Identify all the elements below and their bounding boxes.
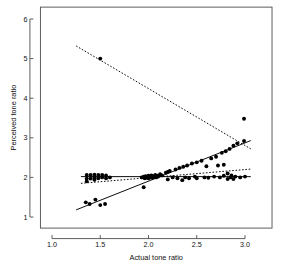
data-point: [216, 164, 220, 168]
y-tick-label: 5: [23, 54, 27, 63]
data-point: [100, 175, 104, 179]
data-point: [98, 203, 102, 207]
data-point: [220, 151, 224, 155]
x-tick-label: 2.5: [192, 240, 202, 249]
data-point: [104, 176, 108, 180]
data-point: [190, 162, 194, 166]
data-point: [103, 202, 107, 206]
data-point: [142, 185, 146, 189]
data-point: [85, 179, 89, 183]
data-point: [187, 176, 191, 180]
data-point: [222, 174, 226, 178]
y-tick-label: 1: [23, 213, 27, 222]
data-point: [204, 164, 208, 168]
data-point: [200, 159, 204, 163]
data-point: [96, 176, 100, 180]
data-point: [233, 175, 237, 179]
data-point: [93, 198, 97, 202]
data-point: [242, 117, 246, 121]
data-point: [174, 168, 178, 172]
data-point: [108, 175, 112, 179]
data-point: [93, 178, 97, 182]
data-point: [209, 156, 213, 160]
y-tick-label: 2: [23, 173, 27, 182]
data-point: [166, 177, 170, 181]
data-point: [84, 200, 88, 204]
data-point: [180, 178, 184, 182]
data-point: [212, 175, 216, 179]
data-point: [181, 165, 185, 169]
y-axis-title: Perceived tone ratio: [9, 85, 18, 151]
data-point: [168, 169, 172, 173]
plot-frame: [40, 7, 272, 228]
data-point: [177, 166, 181, 170]
fit-line-decreasing-dotted-fit: [76, 46, 251, 149]
x-tick-label: 2.0: [144, 240, 154, 249]
data-point: [183, 175, 187, 179]
y-tick-label: 3: [23, 133, 27, 142]
data-point: [231, 144, 235, 148]
data-point: [85, 173, 89, 177]
data-point: [195, 160, 199, 164]
data-point: [235, 141, 239, 145]
data-point: [203, 175, 207, 179]
y-tick-label: 6: [23, 15, 27, 24]
data-point: [226, 171, 230, 175]
data-point: [185, 164, 189, 168]
plot-canvas: 123456 1.01.52.02.53.0 Actual tone ratio…: [0, 0, 296, 274]
data-point: [230, 173, 234, 177]
fit-lines-group: [76, 46, 251, 210]
data-point: [176, 176, 180, 180]
data-point: [222, 163, 226, 167]
x-tick-label: 1.5: [95, 240, 105, 249]
data-point: [242, 139, 246, 143]
x-axis-title: Actual tone ratio: [130, 253, 183, 262]
data-point: [160, 173, 164, 177]
scatter-plot-figure: 123456 1.01.52.02.53.0 Actual tone ratio…: [0, 0, 296, 274]
data-point: [98, 57, 102, 61]
data-point: [206, 176, 210, 180]
x-axis: [52, 235, 245, 239]
data-point: [243, 175, 247, 179]
data-point: [218, 175, 222, 179]
y-axis: [30, 19, 33, 217]
x-tick-label: 3.0: [240, 240, 250, 249]
x-tick-label: 1.0: [47, 240, 57, 249]
data-point: [228, 147, 232, 151]
data-point: [195, 176, 199, 180]
data-point: [88, 202, 92, 206]
data-point: [238, 175, 242, 179]
y-axis-tick-labels: 123456: [23, 15, 27, 222]
data-point: [89, 173, 93, 177]
y-tick-label: 4: [23, 94, 27, 103]
data-point: [224, 149, 228, 153]
data-point: [89, 177, 93, 181]
x-axis-tick-labels: 1.01.52.02.53.0: [47, 240, 250, 249]
data-point: [171, 175, 175, 179]
data-point: [214, 155, 218, 159]
